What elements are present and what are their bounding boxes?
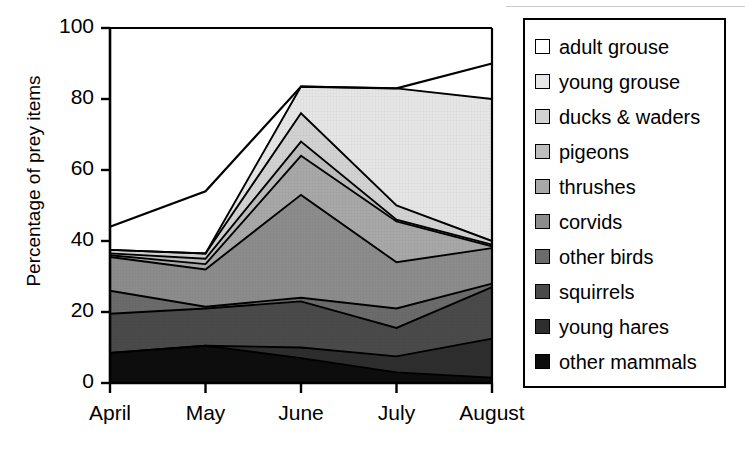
legend-item[interactable]: other birds: [535, 239, 714, 274]
y-tick-label: 40: [32, 227, 94, 251]
legend-swatch-icon: [535, 214, 550, 229]
area-series-group: [110, 64, 492, 384]
legend-swatch-icon: [535, 284, 550, 299]
legend-item[interactable]: corvids: [535, 204, 714, 239]
legend-item[interactable]: adult grouse: [535, 29, 714, 64]
stacked-area-chart: Percentage of prey items 020406080100 Ap…: [0, 0, 520, 455]
legend-item-label: other birds: [559, 247, 654, 267]
legend-item-label: pigeons: [559, 142, 629, 162]
x-tick-label: May: [151, 401, 261, 425]
page-top-rule: [506, 6, 745, 7]
legend-item-label: adult grouse: [559, 37, 669, 57]
legend-item[interactable]: thrushes: [535, 169, 714, 204]
y-tick-label: 80: [32, 85, 94, 109]
legend-item-label: other mammals: [559, 352, 697, 372]
legend-item-label: young grouse: [559, 72, 680, 92]
legend-box: adult grouseyoung grouseducks & waderspi…: [523, 18, 726, 388]
legend-swatch-icon: [535, 144, 550, 159]
legend-item[interactable]: young hares: [535, 309, 714, 344]
y-tick-label: 20: [32, 298, 94, 322]
legend-item[interactable]: ducks & waders: [535, 99, 714, 134]
chart-legend: adult grouseyoung grouseducks & waderspi…: [523, 18, 728, 390]
legend-item-label: squirrels: [559, 282, 635, 302]
x-tick-label: August: [437, 401, 547, 425]
legend-item-label: corvids: [559, 212, 622, 232]
legend-swatch-icon: [535, 109, 550, 124]
y-tick-label: 100: [32, 14, 94, 38]
legend-item[interactable]: other mammals: [535, 344, 714, 379]
legend-swatch-icon: [535, 74, 550, 89]
x-tick-label: April: [55, 401, 165, 425]
legend-swatch-icon: [535, 319, 550, 334]
legend-swatch-icon: [535, 39, 550, 54]
legend-item[interactable]: pigeons: [535, 134, 714, 169]
legend-item-label: ducks & waders: [559, 107, 700, 127]
legend-swatch-icon: [535, 249, 550, 264]
legend-item-label: thrushes: [559, 177, 636, 197]
legend-item-label: young hares: [559, 317, 669, 337]
legend-item[interactable]: young grouse: [535, 64, 714, 99]
x-tick-label: July: [342, 401, 452, 425]
y-tick-label: 60: [32, 156, 94, 180]
legend-swatch-icon: [535, 179, 550, 194]
legend-swatch-icon: [535, 354, 550, 369]
x-tick-label: June: [246, 401, 356, 425]
y-tick-label: 0: [32, 369, 94, 393]
legend-item[interactable]: squirrels: [535, 274, 714, 309]
